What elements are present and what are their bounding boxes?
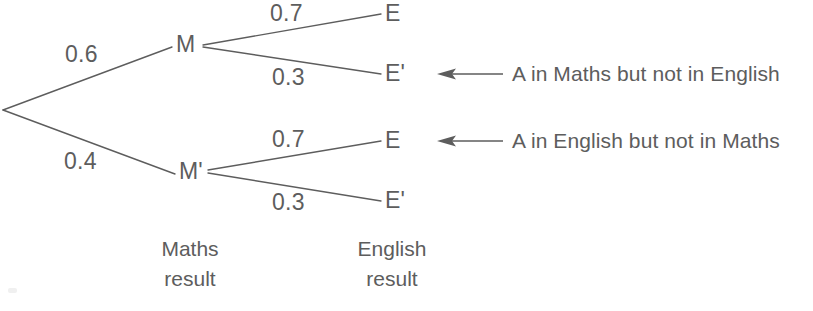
annotation-text-maths-not-english: A in Maths but not in English [512, 63, 780, 84]
node-label-M-prime: M' [179, 160, 203, 183]
node-label-E-lower: E [385, 129, 401, 152]
probability-label-M-to-E: 0.7 [270, 2, 303, 25]
probability-label-M-prime-to-E-prime: 0.3 [272, 191, 305, 214]
stage-caption-maths-line1: Maths [130, 234, 250, 264]
probability-tree-diagram: M M' E E' E E' 0.6 0.4 0.7 0.3 0.7 0.3 M… [0, 0, 813, 311]
probability-label-M-to-E-prime: 0.3 [272, 66, 305, 89]
probability-label-root-to-M: 0.6 [65, 43, 98, 66]
stage-caption-maths-line2: result [130, 264, 250, 294]
stage-caption-english-line1: English [332, 234, 452, 264]
node-label-E-prime-upper: E' [385, 62, 405, 85]
node-label-E-upper: E [385, 2, 401, 25]
stage-caption-english: English result [332, 234, 452, 295]
stage-caption-english-line2: result [332, 264, 452, 294]
node-label-E-prime-lower: E' [385, 189, 405, 212]
probability-label-M-prime-to-E: 0.7 [272, 128, 305, 151]
annotation-text-english-not-maths: A in English but not in Maths [512, 130, 780, 151]
scan-artifact-speck [8, 288, 17, 293]
stage-caption-maths: Maths result [130, 234, 250, 295]
node-label-M: M [176, 33, 195, 56]
probability-label-root-to-M-prime: 0.4 [64, 150, 97, 173]
